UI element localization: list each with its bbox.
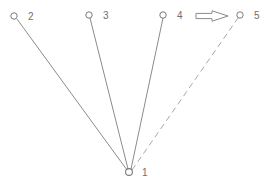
node-1-label: 1 [142,167,148,178]
node-3-label: 3 [103,10,109,21]
node-4-label: 4 [177,10,183,21]
edge-1-4 [131,18,163,169]
node-4[interactable]: 4 [160,10,183,21]
edge-1-3 [90,18,128,169]
edge-1-5 [132,18,238,170]
node-3[interactable]: 3 [86,10,109,21]
node-4-circle[interactable] [160,12,166,18]
node-2-label: 2 [28,11,34,22]
right-arrow-icon [196,11,228,21]
node-group: 1 2 3 4 5 [11,10,260,178]
node-1[interactable]: 1 [126,167,148,178]
graph-diagram: 1 2 3 4 5 [0,0,269,187]
node-2-circle[interactable] [11,13,17,19]
node-5[interactable]: 5 [237,10,260,21]
diagram-canvas: 1 2 3 4 5 [0,0,269,187]
node-5-label: 5 [254,10,260,21]
node-3-circle[interactable] [86,12,92,18]
edge-group [17,18,238,170]
node-2[interactable]: 2 [11,11,34,22]
node-1-circle[interactable] [126,169,133,176]
edge-1-2 [17,19,127,170]
node-5-circle[interactable] [237,12,243,18]
